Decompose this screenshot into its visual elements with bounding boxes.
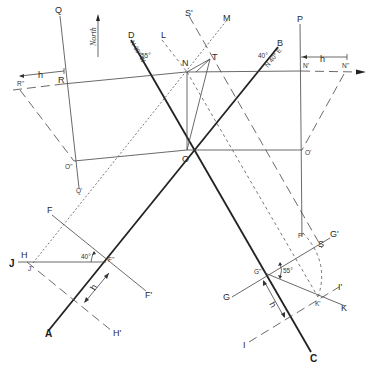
label-i: I	[243, 340, 246, 350]
label-angle-ab: 40°	[258, 52, 268, 59]
line-r-dprime-o-dprime	[20, 90, 74, 161]
label-angle-f: 40°	[81, 253, 91, 260]
east-arrowhead	[356, 70, 366, 75]
label-l: L	[161, 30, 166, 40]
label-t: T	[212, 52, 218, 62]
line-n-dprime-o-prime	[302, 74, 344, 150]
label-s-prime: S'	[185, 8, 193, 18]
label-n-prime: N'	[303, 62, 309, 69]
line-o-dprime-o	[74, 150, 187, 161]
label-o: O	[182, 154, 189, 164]
label-h-bottom-right: h	[267, 300, 278, 309]
label-angle-g: 55°	[283, 267, 293, 274]
label-j: J	[9, 258, 15, 269]
label-m: M	[223, 13, 231, 23]
label-k: K	[341, 303, 347, 313]
line-n-k-prime	[187, 72, 318, 297]
north-arrowhead	[96, 14, 100, 21]
line-n-prime-to-arrow	[301, 71, 358, 72]
line-r-to-n	[63, 72, 186, 84]
label-r: R	[58, 75, 65, 85]
label-g-prime: G'	[330, 229, 339, 239]
label-q-prime: Q'	[76, 187, 82, 195]
label-c: C	[310, 353, 317, 364]
label-o-dprime: O''	[65, 163, 73, 170]
label-p: P	[297, 14, 303, 24]
line-n-to-n-prime	[186, 71, 301, 72]
label-h-top-right: h	[320, 54, 325, 64]
label-k-prime: K'	[315, 300, 321, 307]
label-n-dprime: N''	[342, 62, 349, 69]
label-h-top-left: h	[38, 70, 43, 80]
geometry-diagram: North Q R R'' O'' Q' D N 30° W 55° L S' …	[0, 0, 370, 367]
north-label: North	[89, 27, 98, 47]
label-f-dprime: F''	[108, 256, 114, 263]
line-j-prime-m	[33, 20, 227, 263]
label-d: D	[128, 30, 135, 40]
label-q: Q	[55, 5, 62, 15]
label-h-bottom-left: h	[88, 283, 99, 292]
label-f: F	[47, 205, 53, 215]
line-ab	[49, 47, 278, 330]
label-g-dprime: G''	[254, 268, 262, 275]
label-h-prime: H'	[113, 328, 121, 338]
label-a: A	[45, 328, 52, 339]
label-b: B	[277, 38, 283, 48]
label-j-prime: J'	[28, 265, 33, 272]
line-h-h-prime	[27, 262, 112, 331]
label-n: N	[182, 58, 189, 68]
line-i-i-prime	[249, 287, 339, 342]
label-angle-dc: 55°	[141, 52, 151, 59]
label-i-prime: I'	[338, 282, 343, 292]
label-o-prime: O'	[305, 149, 311, 156]
line-pp	[300, 24, 302, 237]
label-r-dprime: R''	[17, 80, 24, 87]
label-h: H	[21, 250, 28, 260]
label-s: S	[318, 239, 324, 249]
label-p-prime: P'	[298, 232, 304, 239]
label-g: G	[223, 292, 230, 302]
label-f-prime: F'	[145, 290, 152, 300]
